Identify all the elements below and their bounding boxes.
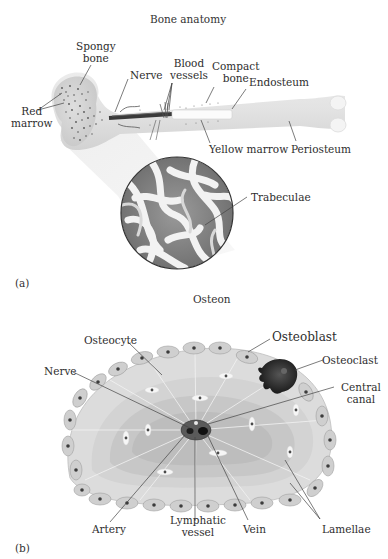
label-osteocyte: Osteocyte — [84, 334, 137, 346]
label-osteoblast: Osteoblast — [272, 331, 337, 343]
label-red-marrow: Red marrow — [11, 105, 53, 129]
bone-figure-graphics — [0, 0, 388, 559]
central-canal — [181, 420, 211, 440]
panel-b-title: Osteon — [193, 293, 231, 305]
label-vein: Vein — [243, 523, 266, 535]
label-trabeculae: Trabeculae — [251, 191, 311, 203]
panel-a-title: Bone anatomy — [150, 13, 226, 25]
label-artery: Artery — [92, 523, 126, 535]
label-lymphatic-vessel: Lymphatic vessel — [170, 514, 226, 538]
label-yellow-marrow: Yellow marrow — [209, 143, 288, 155]
panel-b-tag: (b) — [15, 542, 30, 554]
label-lamellae: Lamellae — [322, 523, 371, 535]
panel-a-tag: (a) — [15, 277, 29, 289]
label-periosteum: Periosteum — [291, 143, 351, 155]
label-nerve-b: Nerve — [44, 365, 77, 377]
osteon-illustration — [62, 342, 336, 512]
label-blood-vessels: Blood vessels — [170, 57, 208, 81]
label-nerve-a: Nerve — [130, 69, 163, 81]
label-spongy-bone: Spongy bone — [76, 40, 116, 64]
long-bone-illustration — [51, 73, 346, 270]
label-osteoclast: Osteoclast — [322, 354, 378, 366]
label-endosteum: Endosteum — [249, 76, 309, 88]
label-central-canal: Central canal — [341, 381, 381, 405]
